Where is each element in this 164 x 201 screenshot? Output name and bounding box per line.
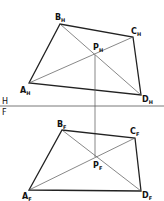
fold-line-group: H F [0,97,164,117]
frontal-view: BF CF AF DF PF [22,120,152,201]
label-b-h: BH [55,13,65,23]
label-p-h: PH [93,43,103,53]
label-a-h: AH [20,86,30,96]
label-c-f: CF [130,127,139,137]
projection-diagram: BH CH AH DH PH H F BF CF AF DF PF [0,0,164,201]
label-d-f: DF [142,191,152,201]
fold-label-h: H [2,97,8,106]
label-d-h: DH [142,95,153,105]
horizontal-view: BH CH AH DH PH [20,13,153,105]
label-c-h: CH [131,27,141,37]
label-p-f: PF [93,161,102,171]
label-b-f: BF [57,120,67,130]
diagonal-bd-h [60,24,141,95]
label-a-f: AF [22,192,32,201]
fold-label-f: F [2,108,7,117]
diagonal-ac-h [29,37,133,83]
quad-abcd-h [29,24,141,95]
diagonal-bd-f [62,130,141,191]
